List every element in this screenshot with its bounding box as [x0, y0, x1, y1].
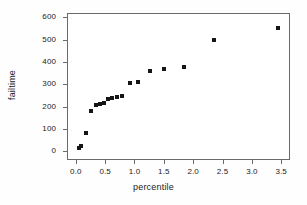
scatter-plot-figure: 0100200300400500600 0.00.51.01.52.02.53.…: [0, 0, 307, 205]
y-axis-tick-label: 300: [30, 80, 56, 88]
y-axis-tick-label: 600: [30, 13, 56, 21]
x-axis-tick-label: 0.0: [64, 168, 88, 176]
y-axis-tick-mark: [63, 151, 67, 152]
x-axis-tick-mark: [105, 160, 106, 164]
y-axis-tick-mark: [63, 107, 67, 108]
x-axis-tick-label: 1.5: [152, 168, 176, 176]
x-axis-tick-label: 3.0: [240, 168, 264, 176]
x-axis-tick-label: 2.0: [181, 168, 205, 176]
x-axis-tick-mark: [134, 160, 135, 164]
y-axis-tick-mark: [63, 40, 67, 41]
x-axis-tick-label: 1.0: [122, 168, 146, 176]
y-axis-tick-mark: [63, 17, 67, 18]
x-axis-tick-mark: [281, 160, 282, 164]
x-axis-tick-mark: [193, 160, 194, 164]
plot-area-frame: [67, 13, 290, 160]
y-axis-tick-label: 500: [30, 36, 56, 44]
y-axis-tick-label: 400: [30, 58, 56, 66]
y-axis-tick-mark: [63, 84, 67, 85]
x-axis-tick-label: 2.5: [211, 168, 235, 176]
x-axis-tick-label: 0.5: [93, 168, 117, 176]
y-axis-label: failtime: [7, 50, 17, 120]
x-axis-tick-mark: [76, 160, 77, 164]
x-axis-tick-label: 3.5: [269, 168, 293, 176]
x-axis-label: percentile: [0, 182, 307, 192]
y-axis-tick-label: 200: [30, 103, 56, 111]
x-axis-tick-mark: [164, 160, 165, 164]
y-axis-tick-mark: [63, 62, 67, 63]
y-axis-tick-label: 100: [30, 125, 56, 133]
y-axis-tick-mark: [63, 129, 67, 130]
y-axis-tick-label: 0: [30, 147, 56, 155]
x-axis-tick-mark: [223, 160, 224, 164]
x-axis-tick-mark: [252, 160, 253, 164]
